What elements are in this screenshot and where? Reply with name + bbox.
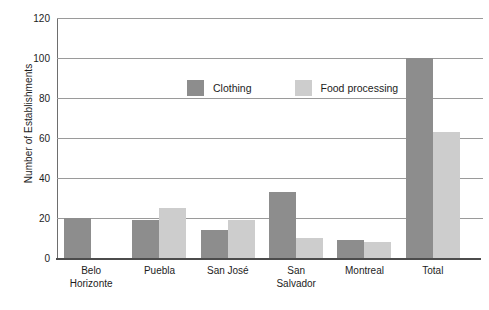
y-tick-label-40: 40: [39, 173, 50, 184]
gridline-stub-80: [467, 98, 483, 99]
x-category-label: San José: [194, 264, 262, 277]
x-category-label: BeloHorizonte: [57, 264, 125, 290]
bar: [337, 240, 364, 258]
bar: [159, 208, 186, 258]
clothing-swatch-icon: [187, 80, 204, 96]
bar-group: [399, 18, 467, 258]
legend-label-clothing: Clothing: [213, 82, 252, 94]
chart-legend: Clothing Food processing: [187, 80, 398, 96]
bar-group: [262, 18, 330, 258]
bar-chart-figure: Number of Establishments 020406080100120…: [0, 0, 489, 310]
food-processing-swatch-icon: [295, 80, 312, 96]
y-tick-label-20: 20: [39, 213, 50, 224]
bar-group: [330, 18, 398, 258]
gridline-stub-120: [467, 18, 483, 19]
gridline-stub-60: [467, 138, 483, 139]
bar-group: [125, 18, 193, 258]
x-category-label-line: Puebla: [125, 264, 193, 277]
gridline-stub-100: [467, 58, 483, 59]
y-tick-label-100: 100: [33, 53, 50, 64]
y-tick-label-0: 0: [44, 253, 50, 264]
x-category-label: Total: [399, 264, 467, 277]
bar-group: [57, 18, 125, 258]
gridline-stub-20: [467, 218, 483, 219]
bar: [433, 132, 460, 258]
bar: [132, 220, 159, 258]
legend-entry-food-processing: Food processing: [295, 80, 399, 96]
bar: [201, 230, 228, 258]
x-category-label: Montreal: [330, 264, 398, 277]
bar: [406, 58, 433, 258]
x-category-label-line: Total: [399, 264, 467, 277]
y-tick-label-60: 60: [39, 133, 50, 144]
bar: [228, 220, 255, 258]
legend-label-food-processing: Food processing: [321, 82, 399, 94]
x-category-label-line: Salvador: [262, 277, 330, 290]
bar-group: [194, 18, 262, 258]
x-category-label: SanSalvador: [262, 264, 330, 290]
bar: [296, 238, 323, 258]
x-category-label: Puebla: [125, 264, 193, 277]
y-tick-label-120: 120: [33, 13, 50, 24]
gridline-stub-40: [467, 178, 483, 179]
x-category-label-line: San José: [194, 264, 262, 277]
y-tick-label-80: 80: [39, 93, 50, 104]
bar: [364, 242, 391, 258]
x-category-label-line: Belo: [57, 264, 125, 277]
x-category-label-line: Montreal: [330, 264, 398, 277]
x-category-label-line: Horizonte: [57, 277, 125, 290]
bar: [269, 192, 296, 258]
plot-area: 020406080100120 BeloHorizontePueblaSan J…: [57, 18, 467, 258]
legend-entry-clothing: Clothing: [187, 80, 252, 96]
y-axis-title: Number of Establishments: [23, 34, 34, 214]
x-category-label-line: San: [262, 264, 330, 277]
bar: [64, 218, 91, 258]
x-axis-line: [56, 258, 481, 260]
